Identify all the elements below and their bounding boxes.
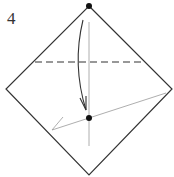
diagonal-guide-line [52,93,166,130]
fold-arrow-icon [78,20,86,110]
fold-diagram [0,0,174,177]
top-point-dot [86,3,92,9]
target-point-dot [86,115,92,121]
